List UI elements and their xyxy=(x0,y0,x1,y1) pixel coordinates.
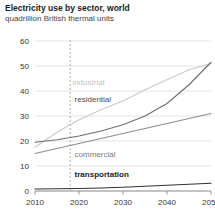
series-labels: industrialresidentialcommercialtransport… xyxy=(72,78,129,178)
x-axis-ticks xyxy=(35,191,211,195)
y-tick-label-30: 30 xyxy=(20,112,29,121)
y-tick-label-60: 60 xyxy=(20,37,29,46)
x-tick-label-2030: 2030 xyxy=(114,198,132,207)
series-line-commercial xyxy=(35,114,211,154)
y-tick-label-10: 10 xyxy=(20,162,29,171)
y-tick-label-40: 40 xyxy=(20,87,29,96)
series-label-transportation: transportation xyxy=(75,170,129,179)
series-line-transportation xyxy=(35,183,211,189)
x-axis-labels: 20102020203020402050 xyxy=(26,198,215,207)
series-line-industrial xyxy=(35,64,211,148)
y-tick-label-50: 50 xyxy=(20,62,29,71)
chart-header: Electricity use by sector, world quadril… xyxy=(5,3,210,24)
line-chart-svg: 0102030405060 20102020203020402050 indus… xyxy=(0,30,215,218)
y-tick-label-20: 20 xyxy=(20,137,29,146)
y-axis-labels: 0102030405060 xyxy=(20,37,29,196)
series-label-commercial: commercial xyxy=(75,150,116,159)
x-tick-label-2020: 2020 xyxy=(70,198,88,207)
chart-card: Electricity use by sector, world quadril… xyxy=(0,0,215,218)
x-tick-label-2010: 2010 xyxy=(26,198,44,207)
chart-subtitle: quadrillion British thermal units xyxy=(5,14,210,24)
plot-area: 0102030405060 20102020203020402050 indus… xyxy=(0,30,215,218)
y-tick-label-0: 0 xyxy=(25,187,30,196)
gridlines xyxy=(35,41,211,191)
chart-title: Electricity use by sector, world xyxy=(5,3,210,14)
x-tick-label-2050: 2050 xyxy=(202,198,215,207)
series-label-residential: residential xyxy=(75,95,112,104)
x-tick-label-2040: 2040 xyxy=(158,198,176,207)
series-label-industrial: industrial xyxy=(72,78,104,87)
